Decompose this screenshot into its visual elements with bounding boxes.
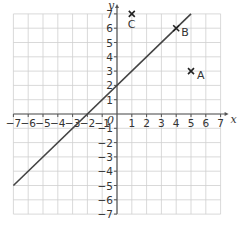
point-B: B: [173, 25, 189, 39]
x-tick-label: 7: [217, 117, 224, 129]
x-tick-label: 2: [143, 117, 150, 129]
y-axis-arrow-icon: [115, 4, 119, 8]
y-tick-label: −1: [98, 122, 113, 134]
y-tick-label: −5: [98, 180, 113, 192]
point-label: B: [181, 26, 189, 39]
y-tick-label: 4: [106, 51, 113, 63]
y-tick-label: −6: [98, 194, 114, 206]
y-tick-label: 6: [106, 22, 113, 34]
x-tick-label: −7: [6, 117, 21, 129]
x-tick-label: −6: [20, 117, 36, 129]
y-tick-label: 5: [106, 37, 113, 49]
x-axis-label: x: [231, 113, 237, 126]
x-tick-label: 5: [188, 117, 195, 129]
coordinate-grid: xy0 −7−6−5−4−3−2−112345677654321−1−2−3−4…: [0, 0, 237, 226]
point-label: A: [197, 69, 205, 82]
x-tick-label: 6: [202, 117, 209, 129]
y-tick-label: −4: [98, 165, 114, 177]
y-tick-label: −3: [98, 151, 113, 163]
point-A: A: [188, 68, 205, 82]
axes: xy0: [13, 0, 237, 214]
x-axis-arrow-icon: [225, 112, 229, 116]
y-tick-label: 3: [106, 65, 113, 77]
point-label: C: [128, 18, 136, 31]
y-tick-label: 7: [106, 8, 113, 20]
y-tick-label: −7: [98, 208, 113, 220]
x-tick-label: −5: [35, 117, 50, 129]
x-tick-label: 1: [128, 117, 135, 129]
x-tick-label: 4: [173, 117, 180, 129]
y-tick-label: −2: [98, 137, 113, 149]
x-tick-label: 3: [158, 117, 165, 129]
x-tick-label: −4: [50, 117, 66, 129]
